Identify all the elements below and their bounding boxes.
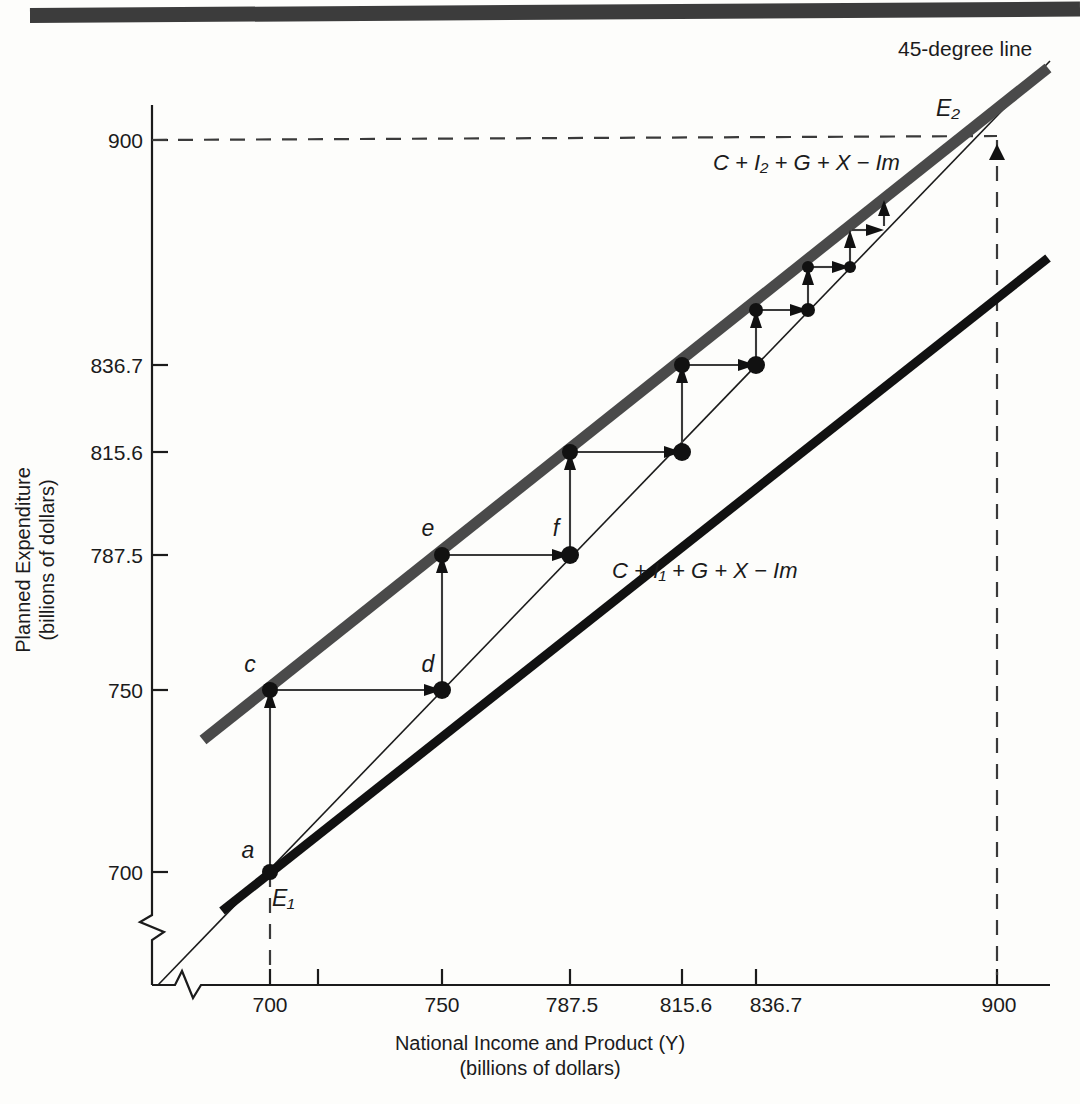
point-k-marker — [801, 303, 815, 317]
point-m-marker — [844, 261, 856, 273]
expenditure-multiplier-chart: 900 836.7 815.6 787.5 750 700 700 750 78… — [0, 0, 1080, 1104]
arrowhead-into-e2 — [989, 144, 1005, 160]
x-axis-title-units: (billions of dollars) — [459, 1057, 620, 1079]
point-b-label: c — [244, 651, 256, 677]
staircase-arrowhead-right-7 — [866, 224, 884, 236]
y-tick-label-787-5: 787.5 — [90, 544, 143, 567]
forty-five-degree-line-label: 45-degree line — [898, 37, 1032, 60]
x-axis-break — [152, 971, 205, 998]
x-tick-label-815-6: 815.6 — [660, 993, 713, 1016]
y-axis-title-units: (billions of dollars) — [36, 479, 58, 640]
ae-line-i1 — [222, 258, 1048, 911]
x-tick-label-700: 700 — [252, 993, 287, 1016]
point-e-marker — [561, 546, 579, 564]
ae-line-i1-label: C + I₁ + G + X − Im — [612, 558, 797, 583]
y-axis-title: Planned Expenditure — [12, 467, 34, 653]
equilibrium-1-label: E₁ — [272, 885, 295, 911]
point-i-marker — [747, 356, 765, 374]
x-tick-group: 700 750 787.5 815.6 836.7 900 — [252, 969, 1016, 1016]
point-f-marker — [562, 444, 578, 460]
point-j-marker — [749, 303, 763, 317]
ae-line-i2 — [203, 68, 1048, 740]
point-b-marker — [262, 682, 278, 698]
point-e-label: f — [553, 515, 562, 541]
point-d-label: e — [422, 515, 435, 541]
guide-horizontal-900 — [152, 136, 997, 140]
point-h-marker — [674, 357, 690, 373]
y-tick-label-750: 750 — [108, 679, 143, 702]
equilibrium-2-label: E₂ — [936, 95, 960, 121]
point-a-label: a — [242, 837, 255, 863]
y-tick-label-900: 900 — [108, 129, 143, 152]
point-g-marker — [673, 443, 691, 461]
x-axis-title: National Income and Product (Y) — [395, 1032, 685, 1054]
point-c-marker — [433, 681, 451, 699]
y-tick-label-836-7: 836.7 — [90, 354, 143, 377]
point-l-marker — [802, 261, 814, 273]
point-d-marker — [434, 547, 450, 563]
point-a-marker — [262, 864, 278, 880]
x-tick-label-787-5: 787.5 — [546, 993, 599, 1016]
x-tick-label-750: 750 — [424, 993, 459, 1016]
y-tick-label-700: 700 — [108, 861, 143, 884]
forty-five-degree-line — [158, 61, 1050, 985]
x-tick-label-836-7: 836.7 — [750, 993, 803, 1016]
point-c-label: d — [422, 651, 436, 677]
x-tick-label-900: 900 — [981, 993, 1016, 1016]
y-tick-group: 900 836.7 815.6 787.5 750 700 — [90, 129, 168, 884]
y-tick-label-815-6: 815.6 — [90, 441, 143, 464]
y-axis-break — [140, 905, 164, 985]
ae-line-i2-label: C + I₂ + G + X − Im — [713, 150, 900, 175]
multiplier-staircase — [264, 144, 1005, 866]
